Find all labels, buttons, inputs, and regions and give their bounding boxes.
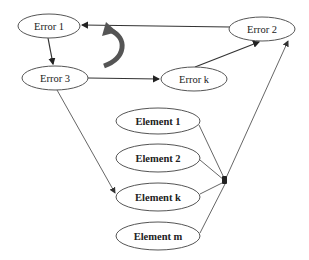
node-label: Error k: [179, 74, 210, 85]
node-error-1[interactable]: Error 1: [18, 14, 80, 38]
edge-error2-to-error1: [82, 25, 230, 27]
edge-error3-to-elementk: [57, 90, 115, 193]
node-element-k[interactable]: Element k: [116, 183, 200, 211]
node-error-3[interactable]: Error 3: [22, 66, 88, 90]
node-label: Element 2: [135, 153, 180, 164]
node-label: Element 1: [135, 116, 180, 127]
node-element-m[interactable]: Element m: [116, 222, 200, 250]
edge-element1-to-junction: [199, 125, 225, 180]
edge-elementm-to-junction: [200, 184, 225, 233]
diagram-canvas: Error 1 Error 2 Error 3 Error k Element …: [0, 0, 309, 260]
edge-junction-to-error2: [226, 41, 288, 178]
node-error-k[interactable]: Error k: [161, 67, 227, 91]
edge-error1-to-error3: [48, 38, 53, 64]
cycle-arrow-icon: [102, 22, 122, 66]
node-label: Element m: [134, 231, 183, 242]
edge-error3-to-errork: [88, 78, 159, 79]
node-element-2[interactable]: Element 2: [116, 144, 200, 172]
node-label: Error 1: [34, 21, 64, 32]
node-label: Element k: [135, 192, 181, 203]
junction-node: [222, 176, 227, 184]
diagram-svg: Error 1 Error 2 Error 3 Error k Element …: [0, 0, 309, 260]
node-label: Error 2: [247, 24, 277, 35]
node-label: Error 3: [40, 73, 70, 84]
edge-errork-to-error2: [195, 42, 259, 67]
node-error-2[interactable]: Error 2: [229, 17, 295, 41]
node-element-1[interactable]: Element 1: [116, 108, 200, 134]
